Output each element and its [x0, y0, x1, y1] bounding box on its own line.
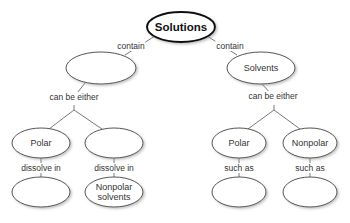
- link-dissolve-mid: dissolve in: [93, 163, 135, 173]
- solvents-label: Solvents: [227, 54, 295, 82]
- link-dissolve-left: dissolve in: [20, 163, 62, 173]
- node-blank-mid: [85, 128, 143, 158]
- node-blank-b3: [212, 177, 266, 207]
- solutions-label: Solutions: [147, 14, 215, 40]
- link-either-left: can be either: [48, 92, 99, 102]
- nonpolar-label: Nonpolar: [283, 130, 337, 156]
- link-such-as-nonpolar: such as: [294, 163, 325, 173]
- link-contain-right: contain: [215, 41, 244, 51]
- node-blank-b4: [283, 177, 337, 207]
- link-contain-left: contain: [116, 41, 145, 51]
- nonpolar-solvents-line2: solvents: [97, 192, 130, 202]
- node-blank-left: [66, 52, 136, 84]
- link-such-as-polar: such as: [223, 163, 254, 173]
- nonpolar-solvents-label: Nonpolar solvents: [85, 178, 143, 206]
- link-either-right: can be either: [247, 91, 298, 101]
- polar-right-label: Polar: [212, 130, 266, 156]
- polar-left-label: Polar: [12, 130, 70, 156]
- nonpolar-solvents-line1: Nonpolar: [96, 182, 133, 192]
- node-blank-b1: [12, 177, 70, 207]
